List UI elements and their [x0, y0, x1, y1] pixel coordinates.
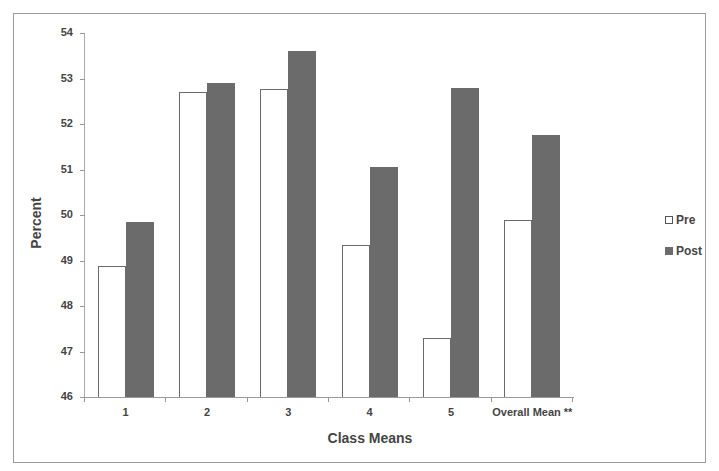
bar-post-3: [288, 51, 316, 397]
y-tick-mark: [80, 215, 85, 216]
y-tick-label: 54: [33, 26, 73, 38]
y-tick-mark: [80, 79, 85, 80]
y-tick-mark: [80, 352, 85, 353]
bar-pre-4: [342, 245, 370, 397]
x-tick-mark: [165, 397, 166, 402]
bar-pre-5: [423, 338, 451, 397]
bar-pre-6: [504, 220, 532, 397]
x-tick-mark: [572, 397, 573, 402]
y-tick-mark: [80, 170, 85, 171]
x-tick-mark: [491, 397, 492, 402]
x-tick-mark: [247, 397, 248, 402]
y-tick-label: 52: [33, 117, 73, 129]
bar-pre-1: [98, 266, 126, 397]
bar-post-5: [451, 88, 479, 397]
bar-post-4: [370, 167, 398, 397]
y-tick-label: 51: [33, 163, 73, 175]
y-tick-mark: [80, 124, 85, 125]
x-tick-mark: [409, 397, 410, 402]
y-tick-label: 47: [33, 345, 73, 357]
legend-label-post: Post: [676, 244, 702, 258]
y-tick-label: 46: [33, 390, 73, 402]
pre-swatch-icon: [665, 216, 673, 224]
x-axis: [84, 397, 574, 398]
bar-pre-3: [260, 89, 288, 397]
legend: Pre Post: [665, 210, 702, 272]
legend-item-pre: Pre: [665, 210, 702, 230]
bar-post-6: [532, 135, 560, 397]
legend-label-pre: Pre: [676, 213, 695, 227]
legend-item-post: Post: [665, 241, 702, 261]
y-tick-label: 53: [33, 72, 73, 84]
y-tick-mark: [80, 33, 85, 34]
x-tick-mark: [84, 397, 85, 402]
x-tick-label: Overall Mean **: [472, 406, 592, 418]
y-axis-title: Percent: [28, 183, 44, 263]
bar-post-2: [207, 83, 235, 397]
y-tick-mark: [80, 261, 85, 262]
bar-pre-2: [179, 92, 207, 397]
y-tick-mark: [80, 306, 85, 307]
x-axis-title: Class Means: [270, 430, 470, 446]
x-tick-mark: [328, 397, 329, 402]
bar-post-1: [126, 222, 154, 397]
y-tick-label: 48: [33, 299, 73, 311]
post-swatch-icon: [665, 247, 673, 255]
